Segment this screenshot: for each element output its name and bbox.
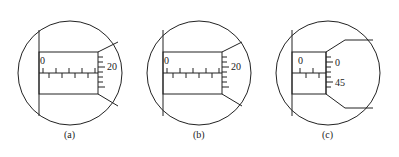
panel-a [18,21,122,125]
panel-c-thimble-label-bottom: 45 [335,77,345,88]
panel-a-thimble-label: 20 [107,61,117,72]
micrometer-readings-figure: 0 20 (a) 0 20 (b) 0 0 45 (c) [0,0,399,157]
panel-b-main-zero: 0 [164,55,169,66]
panel-c-main-zero: 0 [298,55,303,66]
panel-c-caption: (c) [322,129,333,141]
panel-a-caption: (a) [64,129,75,141]
panel-a-main-zero: 0 [40,55,45,66]
panel-c-thimble-label-top: 0 [335,57,340,68]
panel-b-thimble-label: 20 [231,61,241,72]
panel-b [147,21,251,125]
panel-c [276,21,380,125]
panel-b-caption: (b) [193,129,205,141]
